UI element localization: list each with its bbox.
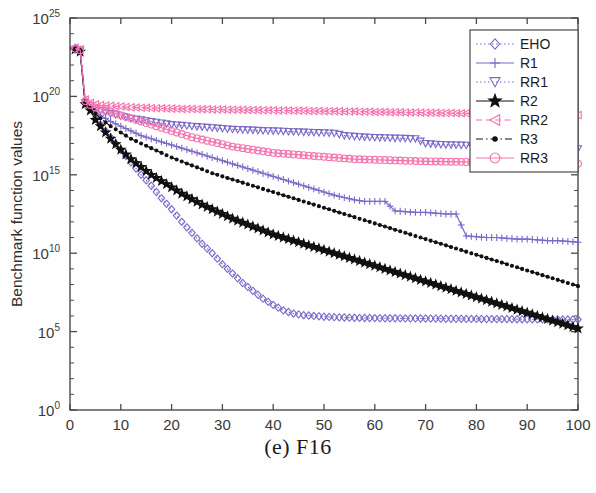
series-marker [211,172,214,175]
series-marker [282,194,285,197]
series-marker [368,220,371,223]
series-marker [500,261,503,264]
legend-label-r3: R3 [520,131,538,147]
series-marker [566,281,569,284]
x-tick-label: 0 [66,416,74,430]
series-marker [323,206,326,209]
series-marker [460,249,463,252]
figure-caption: (e) F16 [0,434,596,460]
series-marker [490,258,493,261]
series-marker [536,272,539,275]
series-marker [114,128,117,131]
series-marker [307,202,310,205]
series-marker [179,218,185,225]
legend-label-r2: R2 [520,93,538,109]
series-marker [470,252,473,255]
series-marker [94,112,97,115]
series-marker [214,255,220,262]
series-marker [272,191,275,194]
series-marker [109,125,112,128]
series-marker [135,140,138,143]
series-marker [394,228,397,231]
series-marker [338,211,341,214]
series-marker [444,244,447,247]
series-marker [493,137,497,141]
series-marker [196,166,199,169]
x-tick-label: 50 [316,416,333,430]
series-marker [129,137,132,140]
series-marker [383,225,386,228]
series-marker [160,151,163,154]
chart-plot: 0102030405060708090100100105101010151020… [0,0,596,430]
series-marker [165,154,168,157]
legend-label-rr2: RR2 [520,112,548,128]
series-marker [119,131,122,134]
x-tick-label: 40 [265,416,282,430]
y-tick-label: 1015 [32,165,60,184]
series-marker [333,209,336,212]
series-marker [184,224,190,231]
series-marker [312,203,315,206]
series-marker [546,275,549,278]
series-marker [201,168,204,171]
legend-label-r1: R1 [520,55,538,71]
series-marker [424,238,427,241]
series-marker [526,269,529,272]
x-tick-label: 10 [112,416,129,430]
x-tick-label: 100 [565,416,590,430]
x-tick-label: 60 [366,416,383,430]
series-marker [170,156,173,159]
series-marker [571,283,574,286]
legend: EHOR1RR1R2RR2R3RR3 [470,30,578,172]
series-marker [485,256,488,259]
series-marker [399,230,402,233]
legend-label-rr3: RR3 [520,150,548,166]
series-marker [216,173,219,176]
y-tick-label: 105 [38,322,61,341]
series-marker [434,241,437,244]
series-marker [516,266,519,269]
series-marker [409,233,412,236]
series-marker [241,181,244,184]
series-marker [124,134,127,137]
series-marker [175,158,178,161]
series-marker [389,227,392,230]
series-marker [292,197,295,200]
series-marker [277,192,280,195]
series-marker [206,170,209,173]
series-marker [317,205,320,208]
series-marker [173,212,179,219]
series-marker [521,267,524,270]
figure-container: 0102030405060708090100100105101010151020… [0,0,596,493]
chart-svg: 0102030405060708090100100105101010151020… [0,0,596,430]
x-tick-label: 70 [417,416,434,430]
series-marker [541,274,544,277]
series-marker [150,147,153,150]
series-marker [262,187,265,190]
series-marker [267,189,270,192]
series-marker [185,162,188,165]
series-marker [363,219,366,222]
series-marker [180,160,183,163]
series-marker [465,250,468,253]
x-tick-label: 30 [214,416,231,430]
y-tick-label: 1025 [32,8,60,27]
x-tick-label: 20 [163,416,180,430]
series-marker [556,278,559,281]
series-marker [358,217,361,220]
series-marker [505,263,508,266]
series-marker [378,223,381,226]
legend-label-rr1: RR1 [520,74,548,90]
series-marker [209,250,215,257]
series-marker [353,216,356,219]
series-marker [231,178,234,181]
series-marker [348,214,351,217]
y-axis-title: Benchmark function values [8,121,25,307]
series-marker [145,144,148,147]
series-marker [480,255,483,258]
series-marker [302,200,305,203]
series-marker [404,231,407,234]
series-marker [328,208,331,211]
series-marker [245,283,251,290]
series-marker [429,239,432,242]
